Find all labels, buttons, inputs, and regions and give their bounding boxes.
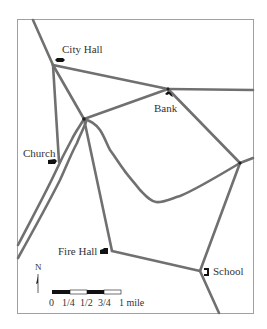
map-canvas [0, 0, 267, 329]
highway-lane-2 [18, 122, 86, 258]
highway-lane-1 [18, 119, 84, 245]
scale-bar [52, 290, 121, 294]
road-bank-to-east-junction [168, 89, 240, 163]
road-east-junction-to-school [200, 163, 240, 271]
junction-markers [82, 87, 241, 164]
road-center-to-fire-hall [84, 119, 112, 251]
school-label: School [213, 266, 244, 277]
road-city-hall-to-center [53, 65, 84, 119]
church-icon [48, 159, 57, 164]
road-school-south [200, 271, 219, 313]
scale-tick-quarter: 1/4 [62, 298, 75, 308]
bank-label: Bank [154, 103, 177, 114]
city-hall-label: City Hall [62, 44, 103, 55]
scale-tick-0: 0 [49, 298, 54, 308]
road-bank-east [168, 89, 253, 90]
compass-north-label: N [35, 263, 42, 272]
scale-tick-three-quarter: 3/4 [98, 298, 111, 308]
road-fire-hall-to-school [112, 251, 200, 271]
church-label: Church [23, 148, 55, 159]
road-east-junction-east [240, 158, 253, 163]
school-icon [204, 269, 208, 275]
road-north-to-city-hall [33, 20, 53, 65]
north-arrow [36, 274, 38, 293]
fire-hall-icon [100, 248, 108, 254]
city-hall-icon [55, 58, 65, 62]
road-winding [84, 119, 240, 202]
scale-tick-one-mile: 1 mile [119, 298, 144, 308]
scale-tick-half: 1/2 [80, 298, 93, 308]
fire-hall-label: Fire Hall [58, 246, 97, 257]
road-city-hall-to-bank [53, 65, 168, 89]
